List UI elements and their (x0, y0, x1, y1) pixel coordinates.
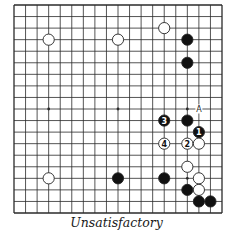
black-stone (182, 57, 193, 68)
black-stone-icon (193, 196, 204, 207)
white-stone (159, 23, 170, 34)
move-number: 1 (196, 128, 202, 137)
move-number: 3 (161, 117, 167, 126)
black-stone-icon (205, 196, 216, 207)
black-stone (193, 196, 204, 207)
go-board: A 3142 (0, 0, 233, 235)
white-stone-icon (112, 34, 123, 45)
black-stone-icon (182, 115, 193, 126)
star-point (186, 177, 189, 180)
white-stone (193, 184, 204, 195)
black-stone-icon (112, 173, 123, 184)
white-stone-icon (159, 23, 170, 34)
white-stone (182, 161, 193, 172)
black-stone-move-3: 3 (159, 115, 170, 126)
black-stone-icon (182, 184, 193, 195)
diagram-caption: Unsatisfactory (0, 215, 233, 231)
white-stone-icon (193, 138, 204, 149)
white-stone-icon (43, 34, 54, 45)
white-stone (43, 34, 54, 45)
white-stone (43, 173, 54, 184)
star-point (186, 108, 189, 111)
move-number: 4 (161, 140, 167, 149)
white-stone-icon (43, 173, 54, 184)
black-stone (112, 173, 123, 184)
white-stone-icon (182, 161, 193, 172)
black-stone-move-1: 1 (193, 127, 204, 138)
point-labels: A (195, 105, 202, 115)
black-stone-icon (182, 34, 193, 45)
white-stone-move-4: 4 (159, 138, 170, 149)
white-stone (112, 34, 123, 45)
black-stone (159, 173, 170, 184)
star-point (117, 108, 120, 111)
star-point (47, 108, 50, 111)
move-number: 2 (185, 140, 191, 149)
white-stone (193, 173, 204, 184)
black-stone-icon (159, 173, 170, 184)
black-stone-icon (182, 57, 193, 68)
point-label-a: A (196, 105, 202, 114)
black-stone (205, 196, 216, 207)
white-stone-icon (193, 173, 204, 184)
white-stone (193, 138, 204, 149)
black-stone (182, 34, 193, 45)
black-stone (182, 115, 193, 126)
white-stone-move-2: 2 (182, 138, 193, 149)
black-stone (182, 184, 193, 195)
white-stone-icon (193, 184, 204, 195)
go-diagram: A 3142 Unsatisfactory (0, 0, 233, 235)
